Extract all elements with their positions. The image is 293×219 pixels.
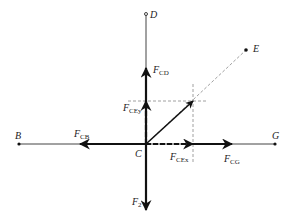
- label-f-cb: F CB: [73, 128, 90, 141]
- svg-text:CEx: CEx: [176, 156, 189, 164]
- label-d: D: [149, 9, 158, 20]
- svg-text:CEy: CEy: [129, 107, 142, 115]
- point-b: [17, 142, 20, 145]
- label-f-2: F 2: [131, 196, 142, 209]
- point-d: [145, 13, 148, 16]
- point-e: [244, 48, 248, 52]
- label-f-cey: F CEy: [122, 102, 142, 115]
- svg-text:CB: CB: [80, 133, 90, 141]
- label-f-cg: F CG: [223, 153, 240, 166]
- force-diagram: D E B G C F CD F CEy F CB F CEx F CG F 2: [0, 0, 293, 219]
- force-ce-arrow: [146, 101, 193, 144]
- svg-text:2: 2: [138, 201, 142, 209]
- label-f-cd: F CD: [152, 64, 169, 77]
- point-g: [273, 142, 276, 145]
- svg-text:CD: CD: [159, 69, 169, 77]
- svg-text:CG: CG: [230, 158, 240, 166]
- label-f-cex: F CEx: [169, 151, 189, 164]
- label-e: E: [252, 43, 259, 54]
- label-c: C: [135, 148, 142, 159]
- label-g: G: [272, 130, 279, 141]
- label-b: B: [15, 130, 21, 141]
